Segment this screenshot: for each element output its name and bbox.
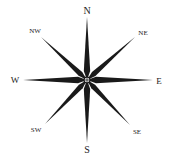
arm-se (87, 80, 130, 125)
arm-n (84, 17, 90, 80)
arm-w (23, 77, 87, 83)
label-s: S (84, 144, 90, 155)
label-w: W (11, 75, 20, 85)
center-hub (83, 76, 90, 83)
label-n: N (83, 5, 90, 16)
arm-nw (41, 37, 87, 80)
label-nw: NW (29, 27, 41, 35)
arm-s (84, 80, 90, 143)
label-e: E (156, 76, 162, 86)
label-ne: NE (138, 29, 147, 37)
compass-rose: N NE E SE S SW W NW (0, 0, 171, 166)
arm-sw (45, 80, 87, 124)
arm-e (87, 77, 153, 83)
label-sw: SW (31, 126, 42, 134)
arm-ne (87, 37, 135, 80)
label-se: SE (133, 128, 141, 136)
